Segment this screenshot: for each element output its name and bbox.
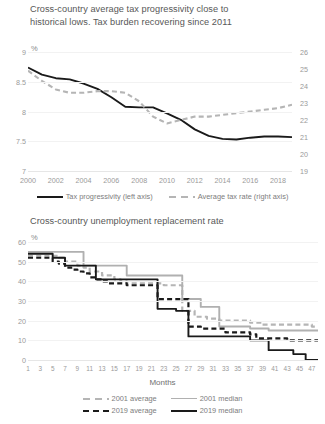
unemp-xtick: 47: [304, 365, 320, 372]
tax-xtick: 2002: [43, 176, 69, 185]
legend-label: 2019 median: [200, 406, 243, 415]
tax-xtick: 2004: [71, 176, 97, 185]
tax-progressivity-chart: Cross-country average tax progressivity …: [0, 0, 325, 212]
legend-label: 2019 average: [112, 406, 157, 415]
tax-y2tick-23: 23: [300, 99, 308, 108]
tax-ytick-7_5: 7.5: [8, 137, 26, 146]
tax-xtick: 2000: [15, 176, 41, 185]
gridline: [28, 82, 292, 83]
tax-y2tick-20: 20: [300, 150, 308, 159]
unemp-ytick-60: 60: [6, 238, 26, 247]
tax-xtick: 2018: [265, 176, 291, 185]
tax-y2tick-26: 26: [300, 48, 308, 57]
tax-ytick-7: 7: [8, 167, 26, 176]
tax-y2tick-25: 25: [300, 65, 308, 74]
tax-y2tick-19: 19: [300, 167, 308, 176]
tax-y2tick-24: 24: [300, 82, 308, 91]
tax-xtick: 2016: [237, 176, 263, 185]
tax-chart-title: Cross-country average tax progressivity …: [30, 3, 310, 28]
legend-row-2019: 2019 average 2019 median: [83, 406, 243, 415]
unemp-ytick-10: 10: [6, 336, 26, 345]
gridline: [28, 141, 292, 142]
gridline: [28, 242, 318, 243]
tax-ytick-9: 9: [8, 48, 26, 57]
gridline: [28, 52, 292, 53]
unemp-y-unit-label: %: [31, 233, 38, 242]
gridline: [28, 321, 318, 322]
tax-y2tick-22: 22: [300, 116, 308, 125]
unemp-ytick-20: 20: [6, 317, 26, 326]
tax-y2tick-21: 21: [300, 133, 308, 142]
tax-xtick: 2012: [182, 176, 208, 185]
unemp-x-axis-title: Months: [0, 378, 325, 387]
axis-baseline: [28, 360, 318, 361]
legend-label: 2001 median: [200, 394, 243, 403]
legend-item-tax-progressivity: Tax progressivity (left axis): [37, 192, 153, 201]
tax-xtick: 2006: [98, 176, 124, 185]
legend-item-average-tax-rate: Average tax rate (right axis): [169, 192, 289, 201]
axis-baseline: [28, 171, 292, 172]
unemp-ytick-0: 0: [6, 356, 26, 365]
legend-item-2019-median: 2019 median: [171, 406, 243, 415]
tax-legend: Tax progressivity (left axis) Average ta…: [0, 192, 325, 201]
gridline: [28, 340, 318, 341]
unemp-chart-title: Cross-country unemployment replacement r…: [30, 215, 315, 228]
tax-xtick: 2008: [126, 176, 152, 185]
gridline: [28, 281, 318, 282]
unemp-ytick-30: 30: [6, 297, 26, 306]
legend-item-2001-average: 2001 average: [83, 394, 157, 403]
unemp-plot-area: [28, 242, 318, 360]
tax-ytick-8: 8: [8, 108, 26, 117]
tax-xtick: 2010: [154, 176, 180, 185]
tax-xtick: 2014: [210, 176, 236, 185]
legend-label: 2001 average: [112, 394, 157, 403]
unemp-legend: 2001 average 2001 median 2019 average 20…: [0, 394, 325, 415]
unemp-ytick-50: 50: [6, 258, 26, 267]
legend-label: Tax progressivity (left axis): [66, 192, 153, 201]
unemp-ytick-40: 40: [6, 277, 26, 286]
chart-page: Cross-country average tax progressivity …: [0, 0, 325, 424]
unemployment-replacement-chart: Cross-country unemployment replacement r…: [0, 212, 325, 424]
tax-plot-area: [28, 52, 292, 171]
gridline: [28, 112, 292, 113]
legend-item-2001-median: 2001 median: [171, 394, 243, 403]
legend-item-2019-average: 2019 average: [83, 406, 157, 415]
legend-label: Average tax rate (right axis): [198, 192, 289, 201]
tax-ytick-8_5: 8.5: [8, 78, 26, 87]
gridline: [28, 301, 318, 302]
legend-row-2001: 2001 average 2001 median: [83, 394, 243, 403]
gridline: [28, 262, 318, 263]
